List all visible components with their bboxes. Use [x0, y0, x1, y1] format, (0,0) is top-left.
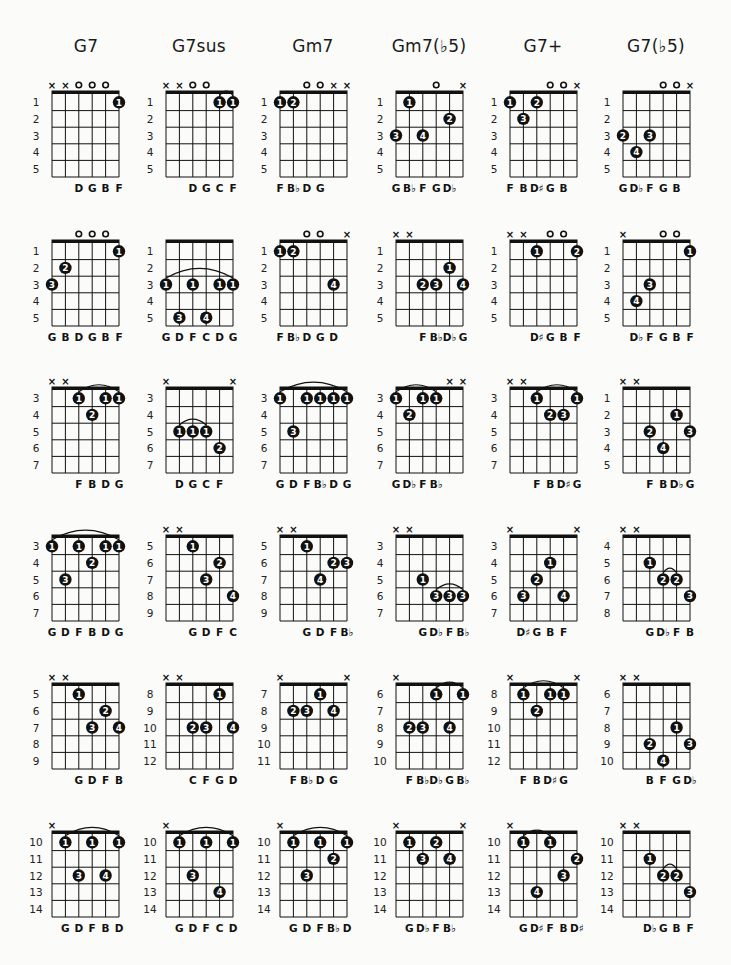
note-label: B♭ — [457, 774, 470, 786]
svg-text:1: 1 — [520, 838, 526, 848]
fret-number: 6 — [33, 590, 40, 602]
svg-text:1: 1 — [190, 280, 196, 290]
note-label: C — [216, 182, 224, 194]
fret-number: 5 — [33, 163, 40, 175]
fretboard-grid — [280, 535, 348, 622]
fret-number: 6 — [604, 574, 611, 586]
note-label: F — [419, 331, 426, 343]
finger-dot: 1 — [200, 425, 212, 437]
svg-text:1: 1 — [203, 838, 209, 848]
note-label: B — [546, 626, 554, 638]
finger-dot: 1 — [571, 392, 583, 404]
svg-text:1: 1 — [406, 838, 412, 848]
svg-text:4: 4 — [420, 131, 426, 141]
note-label: G — [686, 478, 695, 490]
finger-dot: 2 — [213, 557, 225, 569]
muted-string-icon: × — [686, 80, 694, 91]
chord-diagram: 1011121314××1234GD♭FB♭ — [360, 808, 474, 938]
muted-string-icon: × — [506, 820, 514, 831]
fret-number: 5 — [33, 574, 40, 586]
fret-number: 13 — [487, 886, 500, 898]
fret-number: 10 — [373, 836, 386, 848]
chord-title: G7(♭5) — [599, 36, 713, 56]
fret-number: 8 — [377, 722, 384, 734]
fret-number: 6 — [377, 590, 384, 602]
svg-text:4: 4 — [446, 854, 452, 864]
svg-text:2: 2 — [62, 263, 68, 273]
svg-text:2: 2 — [574, 854, 580, 864]
svg-text:2: 2 — [673, 871, 679, 881]
fret-number: 5 — [33, 312, 40, 324]
muted-string-icon: × — [162, 524, 170, 535]
finger-dot: 1 — [287, 836, 299, 848]
muted-string-icon: × — [506, 376, 514, 387]
finger-dot: 1 — [301, 392, 313, 404]
fret-number: 10 — [29, 836, 42, 848]
fret-number: 2 — [261, 113, 268, 125]
chord-diagram: 12345××1DGBF — [16, 68, 130, 198]
fret-number: 12 — [29, 870, 42, 882]
finger-dot: 2 — [644, 425, 656, 437]
fret-number: 2 — [377, 113, 384, 125]
chord-diagram: 34567111113GDFB♭DG — [244, 364, 358, 494]
finger-dot: 1 — [200, 836, 212, 848]
finger-dot: 1 — [59, 836, 71, 848]
svg-text:2: 2 — [660, 871, 666, 881]
note-label: G — [619, 182, 628, 194]
svg-text:2: 2 — [534, 575, 540, 585]
fret-number: 3 — [147, 392, 154, 404]
note-label: D♯ — [557, 478, 571, 490]
fret-number: 7 — [604, 590, 611, 602]
fret-number: 10 — [600, 836, 613, 848]
svg-text:3: 3 — [304, 871, 310, 881]
chord-diagram: 12345××1234FB♭D♭G — [360, 217, 474, 347]
fret-number: 5 — [377, 312, 384, 324]
note-label: F — [547, 922, 554, 934]
note-label: B — [519, 182, 527, 194]
fretboard-grid — [280, 683, 348, 770]
nut-bar — [510, 683, 578, 687]
finger-dot: 1 — [73, 688, 85, 700]
svg-text:1: 1 — [62, 838, 68, 848]
svg-text:1: 1 — [176, 427, 182, 437]
finger-dot: 1 — [314, 688, 326, 700]
open-string-icon — [203, 82, 209, 88]
finger-dot: 1 — [227, 96, 239, 108]
fret-number: 1 — [147, 245, 154, 257]
chord-diagram: 678910××1234BFGD♭ — [587, 660, 701, 790]
note-label: B♭ — [341, 626, 354, 638]
fret-number: 11 — [487, 738, 500, 750]
finger-dot: 1 — [86, 836, 98, 848]
fret-number: 12 — [373, 870, 386, 882]
svg-text:1: 1 — [76, 542, 82, 552]
note-label: F — [406, 774, 413, 786]
fret-number: 3 — [377, 130, 384, 142]
fret-number: 4 — [33, 295, 40, 307]
finger-dot: 1 — [113, 245, 125, 257]
note-label: D♭ — [656, 626, 670, 638]
finger-dot: 1 — [274, 96, 286, 108]
finger-dot: 1 — [457, 688, 469, 700]
chord-diagram: 34567××1333GD♭FB♭ — [360, 512, 474, 642]
open-string-icon — [304, 82, 310, 88]
chord-diagram: 12345×124FB♭DGD — [244, 217, 358, 347]
muted-string-icon: × — [632, 672, 640, 683]
svg-text:4: 4 — [446, 723, 452, 733]
fret-number: 14 — [143, 903, 157, 915]
svg-text:1: 1 — [574, 394, 580, 404]
svg-text:1: 1 — [230, 838, 236, 848]
fret-number: 10 — [600, 755, 613, 767]
open-string-icon — [317, 231, 323, 237]
finger-dot: 2 — [287, 705, 299, 717]
note-label: B — [88, 478, 96, 490]
note-label: B♭ — [430, 331, 443, 343]
finger-dot: 1 — [684, 245, 696, 257]
fret-number: 12 — [143, 755, 156, 767]
fret-number: 9 — [604, 738, 611, 750]
finger-dot: 4 — [630, 146, 642, 158]
fret-number: 10 — [487, 722, 500, 734]
note-label: D — [175, 478, 184, 490]
svg-text:1: 1 — [433, 690, 439, 700]
chord-diagram: 56789××1234GDFB♭ — [244, 512, 358, 642]
fret-number: 8 — [261, 705, 268, 717]
